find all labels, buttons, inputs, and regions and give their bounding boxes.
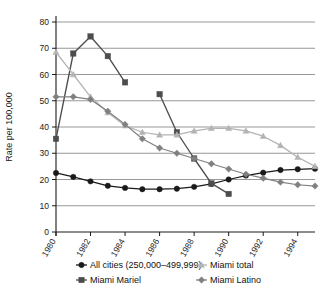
data-point bbox=[209, 181, 214, 186]
data-point bbox=[157, 91, 162, 96]
data-point bbox=[71, 174, 76, 179]
data-point bbox=[53, 136, 58, 141]
data-point bbox=[88, 34, 93, 39]
legend-marker bbox=[79, 262, 84, 267]
legend-label-text: All cities (250,000–499,999) bbox=[90, 260, 202, 270]
data-point bbox=[105, 183, 110, 188]
y-tick-label: 10 bbox=[40, 201, 50, 211]
y-tick-label: 20 bbox=[40, 175, 50, 185]
data-point bbox=[226, 177, 231, 182]
y-tick-label: 80 bbox=[40, 17, 50, 27]
data-point bbox=[261, 170, 266, 175]
data-point bbox=[226, 191, 231, 196]
y-tick-label: 60 bbox=[40, 70, 50, 80]
y-tick-label: 30 bbox=[40, 148, 50, 158]
y-axis-title: Rate per 100,000 bbox=[4, 92, 14, 162]
data-point bbox=[105, 53, 110, 58]
data-point bbox=[71, 51, 76, 56]
data-point bbox=[122, 185, 127, 190]
data-point bbox=[191, 184, 196, 189]
y-tick-label: 70 bbox=[40, 43, 50, 53]
y-tick-label: 50 bbox=[40, 96, 50, 106]
data-point bbox=[295, 167, 300, 172]
data-point bbox=[122, 80, 127, 85]
data-point bbox=[278, 167, 283, 172]
line-chart: 01020304050607080 1980198219841986198819… bbox=[0, 0, 320, 305]
legend-label-text: Miami Mariel bbox=[90, 275, 141, 285]
y-tick-label: 40 bbox=[40, 122, 50, 132]
data-point bbox=[157, 187, 162, 192]
y-tick-labels: 01020304050607080 bbox=[40, 17, 50, 237]
legend-marker bbox=[79, 277, 84, 282]
legend-item[interactable]: All cities (250,000–499,999) bbox=[76, 260, 202, 270]
y-axis-title-text: Rate per 100,000 bbox=[4, 92, 14, 162]
data-point bbox=[53, 170, 58, 175]
legend-label-text: Miami Latino bbox=[210, 275, 261, 285]
data-point bbox=[88, 179, 93, 184]
chart-figure: 01020304050607080 1980198219841986198819… bbox=[0, 0, 320, 305]
y-tick-label: 0 bbox=[44, 227, 49, 237]
legend-label-text: Miami total bbox=[210, 260, 254, 270]
data-point bbox=[140, 187, 145, 192]
data-point bbox=[174, 186, 179, 191]
